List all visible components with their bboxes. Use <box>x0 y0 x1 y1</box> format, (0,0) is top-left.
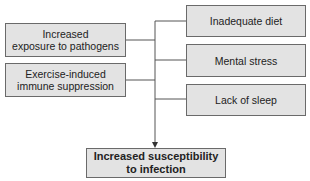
outcome-label-line2: to infection <box>94 163 219 176</box>
factor-lack-of-sleep: Lack of sleep <box>186 84 306 116</box>
factor-label-line1: Exercise-induced <box>17 68 114 80</box>
factor-label-line2: immune suppression <box>17 80 114 92</box>
outcome-box: Increased susceptibility to infection <box>86 148 226 178</box>
factor-label: Lack of sleep <box>215 94 277 106</box>
factor-increased-exposure: Increased exposure to pathogens <box>5 23 126 57</box>
factor-inadequate-diet: Inadequate diet <box>186 5 306 37</box>
factor-mental-stress: Mental stress <box>186 44 306 77</box>
factor-label: Mental stress <box>215 55 277 67</box>
factor-label: Inadequate diet <box>210 15 282 27</box>
factor-exercise-immune-suppression: Exercise-induced immune suppression <box>5 63 126 97</box>
factor-label-line1: Increased <box>12 28 119 40</box>
outcome-label-line1: Increased susceptibility <box>94 150 219 163</box>
factor-label-line2: exposure to pathogens <box>12 40 119 52</box>
